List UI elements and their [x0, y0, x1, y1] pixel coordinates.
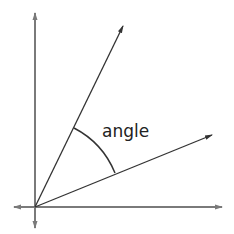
lower-ray [35, 135, 212, 207]
upper-ray [35, 26, 123, 207]
angle-diagram: angle [0, 0, 234, 234]
angle-label: angle [102, 121, 149, 141]
